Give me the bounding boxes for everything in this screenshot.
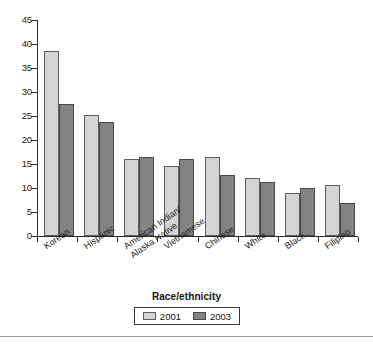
x-axis-tick: [238, 237, 239, 242]
bar-2003: [300, 188, 315, 236]
bar-2003: [179, 159, 194, 236]
legend-swatch-2003-icon: [193, 312, 206, 320]
bottom-divider: [0, 336, 373, 337]
bar-2003: [340, 203, 355, 236]
x-axis-tick: [37, 237, 38, 242]
x-axis-tick: [117, 237, 118, 242]
bar-2001: [245, 178, 260, 236]
bar-2001: [205, 157, 220, 236]
x-axis-tick: [358, 237, 359, 242]
legend-swatch-2001-icon: [143, 312, 156, 320]
x-axis-tick: [318, 237, 319, 242]
bar-group: [124, 20, 154, 236]
bar-chart: 051015202530354045 KoreanHispanicAmerica…: [0, 0, 373, 344]
bar-2003: [59, 104, 74, 236]
bar-2001: [124, 159, 139, 236]
legend-label-2003: 2003: [210, 311, 231, 322]
bar-2003: [220, 175, 235, 236]
y-axis-tick-label: 15: [0, 159, 32, 169]
y-axis-tick-label: 45: [0, 15, 32, 25]
bar-2003: [260, 182, 275, 236]
bar-group: [164, 20, 194, 236]
y-axis-tick-label: 0: [0, 231, 32, 241]
y-axis-tick-label: 30: [0, 87, 32, 97]
y-axis-tick-label: 20: [0, 135, 32, 145]
bar-2001: [84, 115, 99, 236]
x-axis-tick: [157, 237, 158, 242]
bar-2001: [44, 51, 59, 236]
legend-entry-2003: 2003: [193, 311, 231, 322]
y-axis-tick-label: 10: [0, 183, 32, 193]
bar-group: [325, 20, 355, 236]
x-axis-tick: [77, 237, 78, 242]
bar-2001: [164, 166, 179, 236]
bar-group: [84, 20, 114, 236]
bar-2001: [285, 193, 300, 236]
y-axis-tick-label: 35: [0, 63, 32, 73]
y-axis-tick-label: 25: [0, 111, 32, 121]
x-axis-tick: [198, 237, 199, 242]
y-axis-tick-label: 40: [0, 39, 32, 49]
bar-2001: [325, 185, 340, 236]
bar-2003: [99, 122, 114, 236]
bar-group: [205, 20, 235, 236]
bar-2003: [139, 157, 154, 236]
plot-area: [37, 20, 358, 236]
y-axis-tick-label: 5: [0, 207, 32, 217]
bar-group: [285, 20, 315, 236]
x-axis-title: Race/ethnicity: [0, 291, 373, 302]
bar-group: [44, 20, 74, 236]
legend: 2001 2003: [134, 307, 240, 325]
x-axis-tick: [278, 237, 279, 242]
legend-entry-2001: 2001: [143, 311, 181, 322]
legend-label-2001: 2001: [160, 311, 181, 322]
bar-group: [245, 20, 275, 236]
